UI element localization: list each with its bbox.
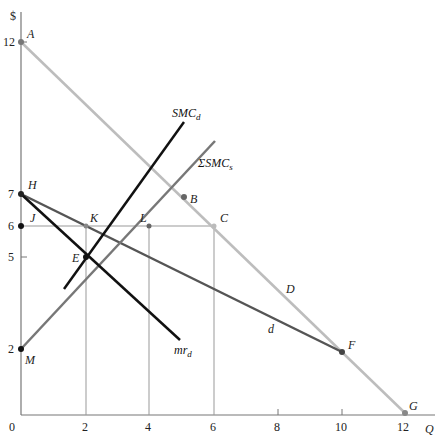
label-C: C [220,211,229,225]
point-L [147,224,152,229]
point-E [83,254,89,260]
sum-smc-fringe [21,141,215,349]
label-G: G [409,399,418,413]
label-L: L [139,211,147,225]
y-tick-label: 12 [3,35,15,49]
y-tick-label: 2 [8,342,14,356]
label-mr-d: mrd [174,343,192,359]
label-curve-d: d [268,322,275,336]
point-G [402,410,408,416]
y-tick-label: 6 [8,219,14,233]
x-tick-label: 6 [210,420,216,434]
label-B: B [190,192,198,206]
marginal-revenue-mr-d [21,194,180,340]
label-H: H [27,178,38,192]
point-A [18,39,24,45]
x-tick-label: 12 [397,420,409,434]
label-E: E [71,251,80,265]
point-K [84,224,89,229]
point-H [18,191,24,197]
label-curve-D: D [285,282,295,296]
label-sum-smc-s: ΣSMCs [197,156,233,172]
label-K: K [89,211,99,225]
x-tick-label: 4 [145,420,151,434]
label-F: F [347,338,356,352]
x-tick-label: 10 [335,420,347,434]
diagram: $ Q 0 12 7 6 5 2 2 4 6 8 10 12 A H J K L… [0,0,445,436]
point-F [339,349,345,355]
y-tick-label: 5 [8,250,14,264]
label-M: M [24,353,36,367]
smc-dominant [64,122,184,289]
y-axis-label: $ [10,9,16,23]
origin-label: 0 [9,420,15,434]
label-A: A [26,27,35,41]
point-J [18,223,24,229]
point-M [18,346,24,352]
x-axis-label: Q [425,422,434,436]
x-tick-label: 2 [82,420,88,434]
point-B [181,194,187,200]
x-tick-label: 8 [274,420,280,434]
dominant-demand-d [21,194,342,352]
point-C [212,224,217,229]
label-J: J [30,211,36,225]
label-smc-d: SMCd [172,106,201,122]
y-tick-label: 7 [8,187,14,201]
